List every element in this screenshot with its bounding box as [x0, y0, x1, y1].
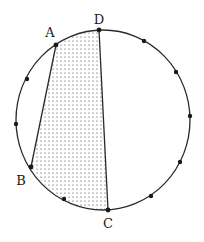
circumference-dot: [178, 160, 182, 164]
circumference-dot: [62, 197, 66, 201]
label-d: D: [94, 12, 104, 27]
point-d: [97, 28, 102, 33]
circumference-dot: [14, 122, 18, 126]
label-a: A: [44, 25, 55, 40]
point-c: [106, 208, 111, 213]
circumference-dot: [25, 77, 29, 81]
circumference-dot: [149, 194, 153, 198]
circle-diagram: D A B C: [0, 0, 204, 242]
point-b: [29, 165, 34, 170]
label-b: B: [16, 173, 26, 188]
circumference-dot: [188, 114, 192, 118]
shaded-region: [31, 30, 108, 210]
circumference-dot: [174, 70, 178, 74]
label-c: C: [103, 216, 113, 231]
point-a: [54, 43, 59, 48]
circumference-dot: [142, 39, 146, 43]
